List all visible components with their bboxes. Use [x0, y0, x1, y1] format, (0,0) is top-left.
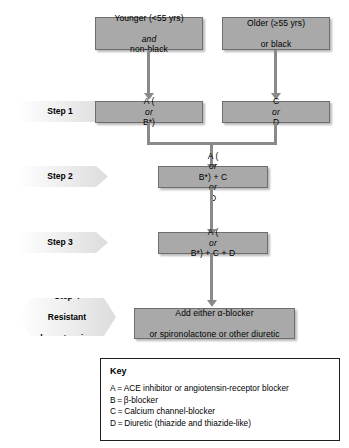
arrowhead-step3-to-step4: [207, 300, 217, 307]
step2-pre: A (: [159, 151, 267, 162]
connector-younger-to-step1: [147, 50, 150, 95]
step-label-4-line1: Step 4: [18, 291, 116, 302]
step2-post2: D: [159, 193, 267, 204]
step3-italic: or: [209, 238, 217, 248]
step-label-2: Step 2: [18, 166, 108, 187]
flowchart-canvas: Younger (<55 yrs) and non-black Older (≥…: [0, 0, 349, 448]
step2-italic: or: [209, 161, 217, 171]
step1-right-italic: or: [272, 107, 280, 117]
connector-step3-to-step4: [210, 254, 213, 302]
step3-pre: A (: [159, 227, 267, 238]
top-left-line1: Younger (<55 yrs): [96, 13, 202, 24]
box-step1-left: A (or B*): [95, 101, 203, 123]
step-label-4-line3: hypertension: [18, 333, 116, 344]
step-label-3: Step 3: [18, 232, 108, 253]
box-younger-non-black: Younger (<55 yrs) and non-black: [95, 17, 203, 50]
key-legend-box: Key A = ACE inhibitor or angiotensin-rec…: [100, 358, 340, 441]
step2-post: B*) + C: [159, 172, 267, 183]
step-label-4-line2: Resistant: [18, 312, 116, 323]
top-right-line2: or black: [223, 39, 329, 50]
key-entry-d: D = Diuretic (thiazide and thiazide-like…: [110, 418, 330, 430]
key-entry-b: B = β-blocker: [110, 395, 330, 407]
step1-right-pre: C: [223, 96, 329, 107]
step4-line1: Add either α-blocker: [135, 308, 294, 319]
key-title: Key: [110, 366, 330, 376]
connector-older-to-step1: [274, 50, 277, 95]
box-step1-right: C or D: [222, 101, 330, 123]
box-step4: Add either α-blocker or spironolactone o…: [134, 308, 295, 339]
box-step3: A (or B*) + C + D: [158, 232, 268, 254]
step3-post: B*) + C + D: [159, 248, 267, 259]
box-step2: A (or B*) + C or D: [158, 166, 268, 188]
top-left-line2-italic: and: [142, 34, 156, 44]
step-label-2-text: Step 2: [18, 171, 108, 182]
step4-line2: or spironolactone or other diuretic: [135, 329, 294, 340]
step-label-4: Step 4 Resistant hypertension: [18, 298, 116, 336]
step1-left-pre: A (: [96, 96, 202, 107]
box-older-or-black: Older (≥55 yrs) or black: [222, 17, 330, 50]
key-entry-a: A = ACE inhibitor or angiotensin-recepto…: [110, 383, 330, 395]
connector-step2-to-step3: [210, 188, 213, 231]
step-label-3-text: Step 3: [18, 237, 108, 248]
top-right-line1: Older (≥55 yrs): [223, 18, 329, 29]
key-entry-c: C = Calcium channel-blocker: [110, 406, 330, 418]
step1-left-italic: or: [145, 107, 153, 117]
